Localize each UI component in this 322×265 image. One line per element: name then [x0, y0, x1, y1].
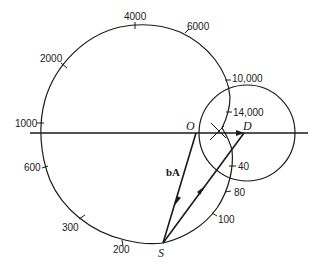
freq-label-100: 100 [218, 214, 235, 225]
freq-label-6000: 6000 [187, 21, 210, 32]
frequency-locus [41, 25, 233, 244]
label-o: O [186, 119, 195, 133]
freq-label-40: 40 [238, 161, 250, 172]
diagram-canvas: O D S bA 4000 2000 1000 600 300 200 6000… [0, 0, 322, 265]
freq-label-4000: 4000 [124, 11, 147, 22]
tick-100 [212, 213, 217, 216]
locus-diagram: O D S bA 4000 2000 1000 600 300 200 6000… [0, 0, 322, 265]
freq-label-80: 80 [234, 187, 246, 198]
freq-label-14000: 14,000 [233, 107, 264, 118]
freq-label-1000: 1000 [15, 118, 38, 129]
vector-ba [163, 133, 196, 243]
tick-300 [79, 215, 85, 219]
label-s: S [158, 246, 164, 260]
freq-label-200: 200 [113, 244, 130, 255]
locus-ticks [37, 22, 236, 246]
label-d: D [242, 119, 252, 133]
arrowhead-sd [197, 186, 205, 195]
label-ba: bA [166, 166, 180, 178]
freq-label-10000: 10,000 [232, 73, 263, 84]
freq-label-600: 600 [24, 162, 41, 173]
freq-label-300: 300 [62, 222, 79, 233]
freq-label-2000: 2000 [40, 53, 63, 64]
